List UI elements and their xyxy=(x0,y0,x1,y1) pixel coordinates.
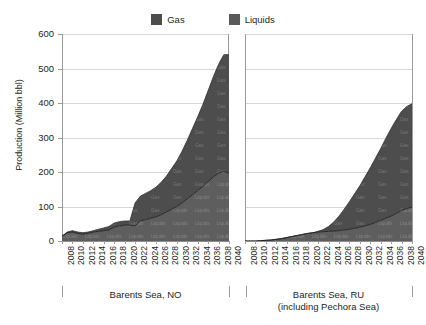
group-caption-ru: Barents Sea, RU (including Pechora Sea) xyxy=(245,289,412,313)
x-tick-mark-2014-panel2 xyxy=(276,241,277,244)
panel-barents-sea-no: GasLiquids xyxy=(62,34,229,241)
x-tick-mark-2018-panel1 xyxy=(114,241,115,244)
y-tick-label-600: 600 xyxy=(20,28,54,39)
panel-barents-sea-no-svg: GasLiquids xyxy=(62,34,229,241)
group-caption-ru-line2: (including Pechora Sea) xyxy=(245,301,412,313)
y-tick-label-300: 300 xyxy=(20,132,54,143)
x-tick-mark-2008-panel2 xyxy=(245,241,246,244)
panel2-right-axis-line xyxy=(412,34,413,241)
x-tick-mark-2026-panel1 xyxy=(156,241,157,244)
x-tick-mark-2012-panel2 xyxy=(266,241,267,244)
x-tick-mark-2032-panel2 xyxy=(370,241,371,244)
x-tick-mark-2012-panel1 xyxy=(83,241,84,244)
x-tick-mark-2018-panel2 xyxy=(297,241,298,244)
y-tick-label-100: 100 xyxy=(20,201,54,212)
x-tick-mark-2038-panel1 xyxy=(219,241,220,244)
y-tick-label-500: 500 xyxy=(20,63,54,74)
legend-item-liquids: Liquids xyxy=(229,14,275,25)
x-tick-mark-2028-panel1 xyxy=(166,241,167,244)
legend-swatch-gas xyxy=(151,14,162,25)
x-tick-mark-2030-panel2 xyxy=(360,241,361,244)
x-tick-mark-2034-panel1 xyxy=(198,241,199,244)
x-tick-mark-2010-panel1 xyxy=(72,241,73,244)
x-tick-mark-2040-panel1 xyxy=(229,241,230,244)
group-caption-no: Barents Sea, NO xyxy=(62,289,229,301)
x-tick-mark-2036-panel2 xyxy=(391,241,392,244)
panel-barents-sea-ru: GasLiquids xyxy=(245,34,412,241)
group-caption-ru-line1: Barents Sea, RU xyxy=(245,289,412,301)
x-tick-mark-2008-panel1 xyxy=(62,241,63,244)
group-caption-no-line1: Barents Sea, NO xyxy=(62,289,229,301)
y-tick-label-400: 400 xyxy=(20,97,54,108)
x-tick-mark-2040-panel2 xyxy=(412,241,413,244)
legend-label-gas: Gas xyxy=(167,14,184,25)
legend-swatch-liquids xyxy=(229,14,240,25)
x-tick-mark-2028-panel2 xyxy=(349,241,350,244)
x-tick-mark-2014-panel1 xyxy=(93,241,94,244)
legend-item-gas: Gas xyxy=(151,14,184,25)
x-tick-mark-2024-panel2 xyxy=(329,241,330,244)
panel-barents-sea-ru-svg: GasLiquids xyxy=(245,34,412,241)
x-tick-mark-2032-panel1 xyxy=(187,241,188,244)
x-tick-mark-2022-panel2 xyxy=(318,241,319,244)
x-tick-label-2040-panel2: 2040 xyxy=(416,246,426,265)
x-tick-mark-2024-panel1 xyxy=(146,241,147,244)
x-tick-mark-2016-panel2 xyxy=(287,241,288,244)
x-tick-mark-2020-panel2 xyxy=(308,241,309,244)
chart-legend: Gas Liquids xyxy=(0,11,426,27)
x-tick-mark-2038-panel2 xyxy=(402,241,403,244)
chart-root: Gas Liquids Production (Million bbl) 600… xyxy=(0,0,426,325)
x-tick-mark-2022-panel1 xyxy=(135,241,136,244)
y-tick-label-200: 200 xyxy=(20,166,54,177)
group-separator-right xyxy=(412,286,413,297)
x-tick-mark-2030-panel1 xyxy=(177,241,178,244)
x-tick-mark-2036-panel1 xyxy=(208,241,209,244)
x-tick-mark-2026-panel2 xyxy=(339,241,340,244)
y-tick-label-0: 0 xyxy=(20,235,54,246)
legend-label-liquids: Liquids xyxy=(245,14,275,25)
x-tick-mark-2034-panel2 xyxy=(381,241,382,244)
group-separator-mid xyxy=(229,286,230,297)
x-tick-mark-2020-panel1 xyxy=(125,241,126,244)
x-tick-mark-2016-panel1 xyxy=(104,241,105,244)
x-tick-mark-2010-panel2 xyxy=(255,241,256,244)
